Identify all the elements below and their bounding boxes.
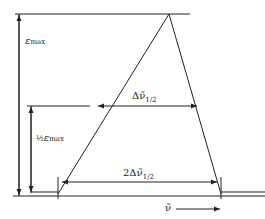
triangle-band-diagram: εmax ½εmax Δν̃1/2 2Δν̃1/2 ν̃ bbox=[0, 0, 265, 219]
double-fwhm-label: 2Δν̃1/2 bbox=[123, 168, 154, 181]
eps-max-label: εmax bbox=[25, 36, 45, 46]
triangle-left-edge bbox=[58, 14, 169, 194]
fwhm-label: Δν̃1/2 bbox=[132, 91, 157, 104]
triangle-right-edge bbox=[169, 14, 221, 194]
wavenumber-axis-label: ν̃ bbox=[165, 203, 171, 213]
diagram-lines bbox=[0, 0, 265, 219]
half-eps-max-label: ½εmax bbox=[36, 133, 64, 143]
